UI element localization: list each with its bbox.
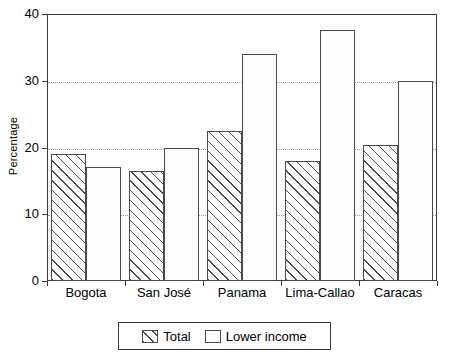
bar-bogota-lower-income (86, 167, 121, 281)
legend-swatch-diagonal-hatch-icon (142, 330, 158, 343)
bar-san-jos--total (129, 171, 164, 281)
bar-lima-callao-total (285, 161, 320, 281)
legend-swatch-dotted-icon (205, 330, 221, 343)
bars-layer (47, 14, 437, 281)
bar-lima-callao-lower-income (320, 30, 355, 281)
x-tick-label-san-jos-: San José (125, 286, 203, 300)
x-tick-label-caracas: Caracas (359, 286, 437, 300)
legend-entry-lower-income[interactable]: Lower income (205, 330, 307, 343)
y-tick-label-40: 40 (0, 7, 39, 20)
x-tick-label-lima-callao: Lima-Callao (281, 286, 359, 300)
y-tick-label-10: 10 (0, 207, 39, 220)
legend-label: Lower income (226, 330, 307, 343)
legend-entry-total[interactable]: Total (142, 330, 190, 343)
bar-panama-lower-income (242, 54, 277, 281)
bar-caracas-total (363, 145, 398, 281)
legend-label: Total (163, 330, 190, 343)
bar-panama-total (207, 131, 242, 281)
bar-bogota-total (51, 154, 86, 281)
chart-legend: TotalLower income (118, 322, 331, 350)
y-tick-label-30: 30 (0, 74, 39, 87)
bar-caracas-lower-income (398, 81, 433, 281)
bar-san-jos--lower-income (164, 148, 199, 282)
x-tick-label-panama: Panama (203, 286, 281, 300)
bar-chart: Percentage 010203040 BogotaSan JoséPanam… (0, 0, 449, 362)
y-tick-label-20: 20 (0, 141, 39, 154)
x-tick-mark-end (437, 281, 438, 286)
y-tick-label-0: 0 (0, 274, 39, 287)
x-tick-label-bogota: Bogota (47, 286, 125, 300)
